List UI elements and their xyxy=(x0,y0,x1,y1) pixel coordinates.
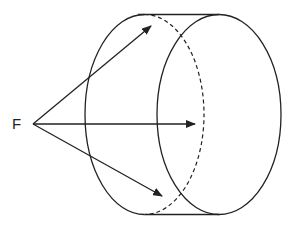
front-ellipse-solid xyxy=(85,15,145,215)
arrow-upper xyxy=(33,26,151,124)
arrow-lower xyxy=(33,124,162,196)
cylinder-diagram: F xyxy=(0,0,298,230)
rear-ellipse xyxy=(157,15,281,215)
point-f-label: F xyxy=(12,115,21,132)
